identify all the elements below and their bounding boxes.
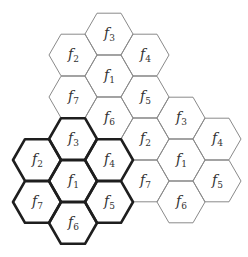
right-cluster-label-f7: f7	[139, 172, 151, 190]
bold-cluster-label-f2: f2	[31, 151, 43, 169]
top-cluster-label-f2: f2	[67, 46, 79, 64]
bold-cluster-label-f6: f6	[67, 214, 79, 232]
top-cluster-label-f6: f6	[103, 109, 115, 127]
top-cluster-label-f4: f4	[139, 46, 151, 64]
bold-cluster-label-f3: f3	[67, 130, 79, 148]
top-cluster-label-f5: f5	[139, 88, 151, 106]
right-cluster-label-f5: f5	[211, 172, 223, 190]
top-cluster-label-f3: f3	[103, 25, 115, 43]
top-cluster-label-f7: f7	[67, 88, 79, 106]
top-cluster-label-f1: f1	[103, 67, 115, 85]
bold-cluster-label-f7: f7	[31, 193, 43, 211]
right-cluster-label-f6: f6	[175, 193, 187, 211]
bold-cluster-label-f4: f4	[103, 151, 115, 169]
right-cluster-label-f4: f4	[211, 130, 223, 148]
bold-cluster-label-f1: f1	[67, 172, 79, 190]
right-cluster-label-f2: f2	[139, 130, 151, 148]
right-cluster-label-f1: f1	[175, 151, 187, 169]
right-cluster-label-f3: f3	[175, 109, 187, 127]
hexagonal-cell-reuse-diagram: f1f2f3f4f5f6f7f1f2f3f4f5f6f7f1f2f3f4f5f6…	[0, 0, 248, 257]
bold-cluster-label-f5: f5	[103, 193, 115, 211]
